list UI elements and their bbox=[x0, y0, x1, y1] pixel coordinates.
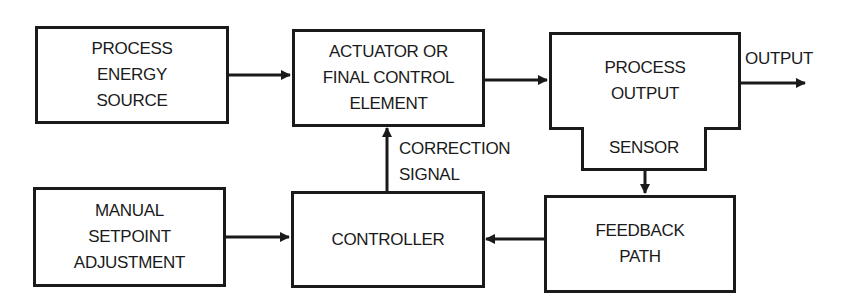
block-label: SENSOR bbox=[609, 135, 679, 161]
block-manual-setpoint: MANUAL SETPOINT ADJUSTMENT bbox=[33, 187, 226, 287]
correction-signal-label: CORRECTION SIGNAL bbox=[399, 136, 510, 188]
block-label: PROCESS ENERGY SOURCE bbox=[91, 36, 172, 114]
block-sensor: SENSOR bbox=[581, 127, 707, 171]
output-label: OUTPUT bbox=[745, 46, 813, 72]
block-label: CONTROLLER bbox=[331, 227, 444, 253]
block-label: ACTUATOR OR FINAL CONTROL ELEMENT bbox=[323, 39, 455, 117]
block-process-energy-source: PROCESS ENERGY SOURCE bbox=[35, 26, 229, 124]
block-label: PROCESS OUTPUT bbox=[604, 55, 685, 107]
block-label: MANUAL SETPOINT ADJUSTMENT bbox=[74, 198, 185, 276]
block-actuator: ACTUATOR OR FINAL CONTROL ELEMENT bbox=[292, 29, 485, 127]
block-feedback-path: FEEDBACK PATH bbox=[544, 195, 736, 293]
block-process-output: PROCESS OUTPUT bbox=[549, 32, 741, 130]
block-label: FEEDBACK PATH bbox=[595, 218, 684, 270]
block-controller: CONTROLLER bbox=[291, 191, 485, 288]
